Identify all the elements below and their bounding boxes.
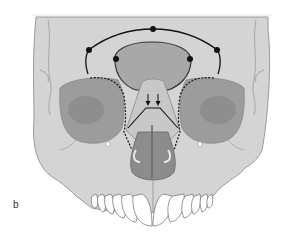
nasal-cavity xyxy=(131,132,176,180)
panel-label: b xyxy=(13,199,19,210)
orbit-right-shadow xyxy=(200,96,236,124)
point-inner-left xyxy=(113,56,119,62)
foramen-right xyxy=(198,142,202,147)
skull-diagram: b xyxy=(0,0,289,242)
orbit-left-shadow xyxy=(68,96,104,124)
point-outer-left xyxy=(86,47,92,53)
point-top xyxy=(150,26,156,32)
foramen-left xyxy=(106,142,110,147)
skull-illustration xyxy=(0,0,289,242)
point-outer-right xyxy=(214,47,220,53)
point-inner-right xyxy=(187,56,193,62)
